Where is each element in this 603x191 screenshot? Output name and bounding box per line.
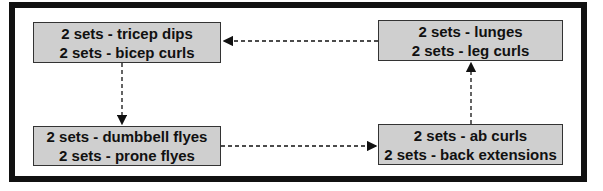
node-top-right: 2 sets - lunges 2 sets - leg curls	[378, 20, 563, 61]
node-line: 2 sets - ab curls	[414, 126, 527, 145]
node-line: 2 sets - leg curls	[412, 41, 530, 60]
node-line: 2 sets - back extensions	[384, 145, 557, 164]
node-line: 2 sets - lunges	[418, 22, 522, 41]
node-line: 2 sets - prone flyes	[59, 146, 195, 165]
node-bottom-right: 2 sets - ab curls 2 sets - back extensio…	[378, 124, 563, 165]
node-line: 2 sets - dumbbell flyes	[47, 127, 208, 146]
node-top-left: 2 sets - tricep dips 2 sets - bicep curl…	[33, 22, 221, 63]
node-bottom-left: 2 sets - dumbbell flyes 2 sets - prone f…	[33, 126, 221, 166]
node-line: 2 sets - bicep curls	[59, 43, 194, 62]
node-line: 2 sets - tricep dips	[61, 24, 193, 43]
